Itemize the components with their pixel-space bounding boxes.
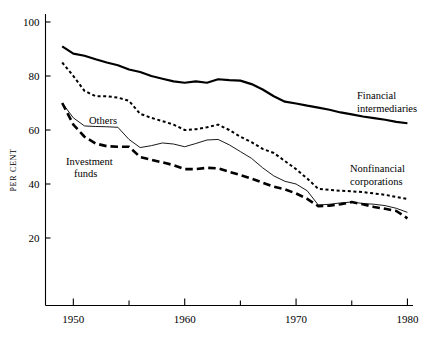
line-chart: 20406080100 1950196019701980 PER CENT Fi… bbox=[0, 0, 423, 339]
label-nonfinancial-corporations-line1: Nonfinancial bbox=[350, 163, 405, 174]
label-investment-funds-line2: funds bbox=[74, 168, 97, 179]
series-line-financial-intermediaries bbox=[62, 46, 407, 123]
label-financial-intermediaries-line1: Financial bbox=[357, 90, 396, 101]
chart-container: 20406080100 1950196019701980 PER CENT Fi… bbox=[0, 0, 423, 339]
y-axis-tick-labels: 20406080100 bbox=[23, 16, 40, 244]
y-tick-label: 60 bbox=[29, 124, 41, 136]
y-tick-label: 40 bbox=[29, 178, 41, 190]
x-tick-label: 1970 bbox=[285, 313, 308, 325]
label-others: Others bbox=[89, 115, 117, 126]
y-tick-label: 100 bbox=[23, 16, 40, 28]
y-axis-ticks bbox=[46, 22, 51, 238]
y-tick-label: 80 bbox=[29, 70, 41, 82]
x-tick-label: 1980 bbox=[396, 313, 419, 325]
series-paths bbox=[62, 46, 407, 218]
x-tick-label: 1950 bbox=[62, 313, 85, 325]
y-tick-label: 20 bbox=[29, 232, 41, 244]
y-axis-title: PER CENT bbox=[9, 148, 18, 191]
x-axis-ticks bbox=[73, 299, 407, 306]
label-nonfinancial-corporations-line2: corporations bbox=[350, 176, 403, 187]
label-investment-funds-line1: Investment bbox=[66, 156, 113, 167]
label-financial-intermediaries-line2: intermediaries bbox=[357, 103, 417, 114]
x-tick-label: 1960 bbox=[174, 313, 197, 325]
x-axis-tick-labels: 1950196019701980 bbox=[62, 313, 419, 325]
